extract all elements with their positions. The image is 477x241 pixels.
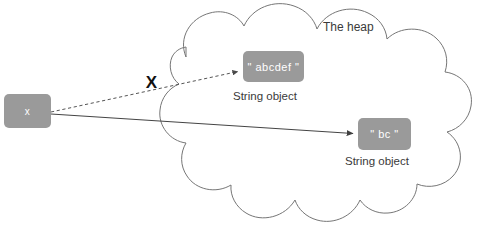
variable-box: x [4, 94, 51, 128]
string-object-abcdef-box: " abcdef " [243, 51, 304, 82]
string-object-bc-box: " bc " [358, 118, 411, 150]
string-object-bc-value: " bc " [370, 128, 399, 140]
string-object-bc-caption: String object [345, 155, 409, 167]
string-object-abcdef-value: " abcdef " [248, 61, 300, 73]
heap-cloud-shape [160, 4, 472, 222]
diagram-canvas: The heap x " abcdef " String object " bc… [0, 0, 477, 241]
string-object-abcdef-caption: String object [233, 90, 297, 102]
broken-reference-cross-icon: X [143, 74, 160, 92]
heap-label: The heap [323, 20, 374, 34]
variable-box-label: x [25, 106, 31, 117]
